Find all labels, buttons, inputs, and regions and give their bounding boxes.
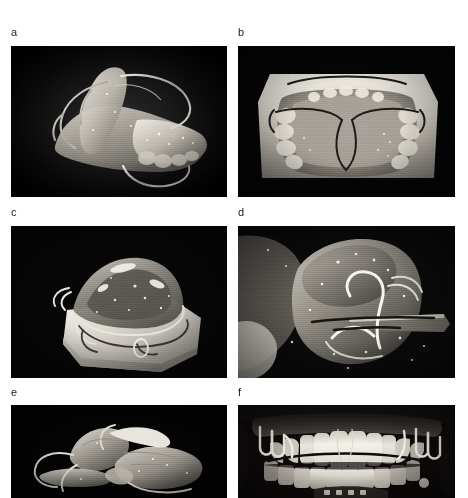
figure-plate: a xyxy=(0,0,468,498)
panel-photo-e xyxy=(11,405,227,498)
panel-photo-c xyxy=(11,226,227,378)
panel-photo-a xyxy=(11,46,227,197)
appliance-detail-closeup-photo xyxy=(238,226,455,378)
intraoral-frontal-photo xyxy=(238,405,455,498)
appliance-lateral-photo xyxy=(11,46,227,197)
panel-label-c: c xyxy=(11,207,17,218)
appliance-on-cast-photo xyxy=(11,226,227,378)
panel-label-b: b xyxy=(238,27,244,38)
panel-photo-f xyxy=(238,405,455,498)
panel-label-a: a xyxy=(11,27,17,38)
panel-photo-b xyxy=(238,46,455,197)
panel-label-d: d xyxy=(238,207,244,218)
panel-label-e: e xyxy=(11,387,17,398)
panel-label-f: f xyxy=(238,387,241,398)
maxillary-cast-occlusal-photo xyxy=(238,46,455,197)
appliance-components-photo xyxy=(11,405,227,498)
panel-photo-d xyxy=(238,226,455,378)
